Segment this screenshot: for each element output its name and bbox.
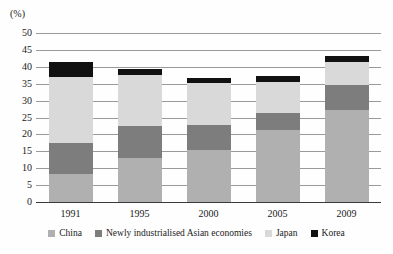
legend-item-newly-industrialised-asian-economies[interactable]: Newly industrialised Asian economies: [95, 228, 252, 239]
bar-segment-china-2005: [256, 130, 300, 202]
chart-figure: (%) 051015202530354045501991199520002005…: [0, 0, 393, 254]
y-axis-tick-label: 0: [6, 197, 32, 207]
x-axis-tick-label-1995: 1995: [105, 208, 175, 220]
x-axis-line: [36, 202, 381, 203]
legend-label: Japan: [276, 228, 298, 239]
legend-item-korea[interactable]: Korea: [311, 228, 345, 239]
x-axis-tick-label-2000: 2000: [174, 208, 244, 220]
x-axis-tick-label-1991: 1991: [36, 208, 106, 220]
bar-segment-newly-industrialised-asian-economies-2009: [325, 85, 369, 110]
bar-segment-japan-1991: [49, 77, 93, 143]
y-axis-tick-label: 40: [6, 62, 32, 72]
bar-segment-china-2009: [325, 110, 369, 202]
legend-label: Newly industrialised Asian economies: [106, 228, 252, 239]
bar-segment-japan-2005: [256, 82, 300, 113]
plot-area: 0510152025303540455019911995200020052009: [36, 33, 381, 202]
bar-segment-japan-2009: [325, 62, 369, 85]
legend-swatch-icon: [48, 230, 55, 237]
legend-swatch-icon: [311, 230, 318, 237]
y-axis-tick-label: 50: [6, 28, 32, 38]
bar-segment-korea-2000: [187, 78, 231, 83]
bar-segment-newly-industrialised-asian-economies-1991: [49, 143, 93, 174]
legend-item-china[interactable]: China: [48, 228, 82, 239]
bar-segment-korea-1995: [118, 69, 162, 75]
legend-item-japan[interactable]: Japan: [265, 228, 298, 239]
bar-segment-korea-2005: [256, 76, 300, 82]
bar-segment-newly-industrialised-asian-economies-2000: [187, 125, 231, 150]
legend-swatch-icon: [95, 230, 102, 237]
bar-segment-korea-1991: [49, 62, 93, 77]
legend-label: China: [59, 228, 82, 239]
bar-segment-japan-2000: [187, 83, 231, 125]
bar-segment-china-1991: [49, 174, 93, 202]
y-axis-tick-label: 30: [6, 96, 32, 106]
y-axis-tick-label: 25: [6, 113, 32, 123]
gridline: [36, 33, 381, 34]
y-axis-tick-label: 20: [6, 129, 32, 139]
chart-legend: ChinaNewly industrialised Asian economie…: [0, 225, 393, 241]
y-axis-tick-label: 45: [6, 45, 32, 55]
bar-segment-newly-industrialised-asian-economies-2005: [256, 113, 300, 130]
x-axis-tick-label-2009: 2009: [312, 208, 382, 220]
y-axis-tick-label: 5: [6, 180, 32, 190]
legend-label: Korea: [322, 228, 345, 239]
bar-segment-japan-1995: [118, 75, 162, 126]
y-axis-tick-label: 15: [6, 146, 32, 156]
bar-segment-korea-2009: [325, 56, 369, 62]
legend-swatch-icon: [265, 230, 272, 237]
y-axis-tick-label: 10: [6, 163, 32, 173]
bar-segment-china-2000: [187, 150, 231, 202]
y-axis-unit-label: (%): [10, 8, 25, 19]
bar-segment-newly-industrialised-asian-economies-1995: [118, 126, 162, 158]
bar-segment-china-1995: [118, 158, 162, 202]
y-axis-tick-label: 35: [6, 79, 32, 89]
gridline: [36, 50, 381, 51]
x-axis-tick-label-2005: 2005: [243, 208, 313, 220]
